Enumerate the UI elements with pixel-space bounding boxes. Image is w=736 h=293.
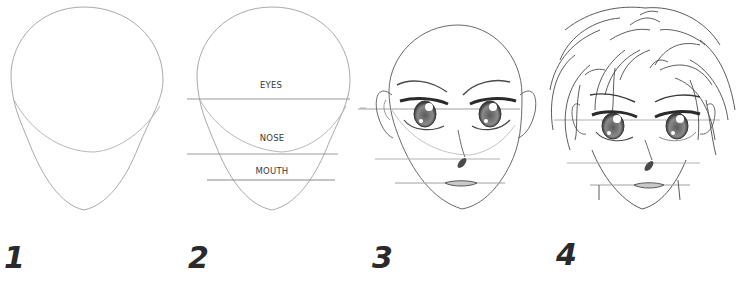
nose-line [458, 130, 465, 157]
left-eyebrow [397, 81, 447, 92]
jaw-guide [14, 100, 160, 152]
nose-guide-label: NOSE [260, 133, 285, 143]
right-eye [655, 112, 700, 141]
step-number-3: 3 [372, 243, 393, 273]
jaw-outline [592, 150, 686, 209]
right-eyebrow [655, 95, 700, 102]
step-4-finished-face [550, 7, 735, 209]
left-eye [592, 112, 637, 141]
sketch-canvas [0, 0, 736, 293]
jaw-guide [200, 100, 346, 152]
nose-shadow [456, 156, 468, 169]
left-ear [376, 91, 393, 138]
nose-shadow [643, 159, 655, 172]
drawing-tutorial: EYES NOSE MOUTH 1 2 3 4 [0, 0, 736, 293]
head-outline [11, 7, 163, 210]
right-eye [470, 99, 516, 130]
left-eye [400, 99, 448, 130]
mouth-guide-label: MOUTH [256, 166, 289, 176]
neck-right [678, 180, 680, 200]
step-number-2: 2 [188, 243, 209, 273]
eyes-guide-label: EYES [260, 80, 282, 90]
right-eyebrow [463, 81, 510, 95]
step-1-head-sketch [11, 7, 163, 210]
step-number-1: 1 [4, 243, 25, 273]
step-2-guides-sketch [187, 7, 366, 210]
step-number-4: 4 [556, 240, 577, 270]
right-ear [518, 91, 536, 138]
nose-line [645, 140, 652, 160]
left-ear [572, 104, 586, 134]
mouth [634, 183, 664, 188]
step-3-face-sketch [358, 25, 536, 209]
mouth [445, 181, 477, 186]
